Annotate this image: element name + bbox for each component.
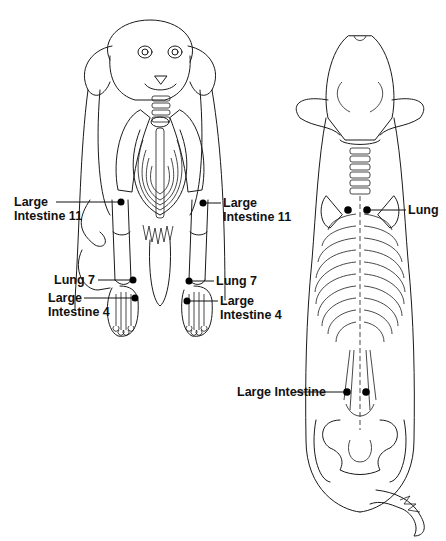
point-lu7-right: [186, 278, 193, 285]
label-line: Intestine 4: [220, 308, 282, 322]
front-view-dog: [75, 20, 225, 336]
point-li-back-right: [362, 388, 370, 396]
label-line: Intestine 11: [14, 209, 82, 223]
point-li4-right: [184, 298, 191, 305]
label-line: Intestine 11: [223, 210, 291, 224]
label-large-intestine-11-right: Large Intestine 11: [223, 196, 291, 224]
label-line: Large: [48, 291, 110, 305]
point-lung-back-right: [363, 206, 371, 214]
point-li4-left: [132, 295, 139, 302]
point-li-back-left: [343, 388, 351, 396]
label-line: Lung: [408, 203, 439, 217]
acupuncture-diagram: Large Intestine 11 Large Intestine 11 Lu…: [0, 0, 446, 541]
label-line: Large Intestine: [237, 385, 326, 399]
label-line: Lung 7: [54, 273, 95, 287]
point-li11-right: [200, 200, 207, 207]
label-line: Large: [220, 294, 282, 308]
dog-skeleton-line-art: [0, 0, 446, 541]
label-lung-7-left: Lung 7: [54, 273, 95, 287]
label-line: Intestine 4: [48, 305, 110, 319]
label-large-intestine-back: Large Intestine: [237, 385, 326, 399]
label-line: Large: [223, 196, 291, 210]
label-lung-back: Lung: [408, 203, 439, 217]
dorsal-view-dog: [296, 36, 424, 536]
label-large-intestine-4-right: Large Intestine 4: [220, 294, 282, 322]
label-line: Large: [14, 195, 82, 209]
label-large-intestine-11-left: Large Intestine 11: [14, 195, 82, 223]
point-lu7-left: [130, 277, 137, 284]
label-lung-7-right: Lung 7: [216, 274, 257, 288]
point-lung-back-left: [344, 206, 352, 214]
label-large-intestine-4-left: Large Intestine 4: [48, 291, 110, 319]
point-li11-left: [118, 199, 125, 206]
label-line: Lung 7: [216, 274, 257, 288]
